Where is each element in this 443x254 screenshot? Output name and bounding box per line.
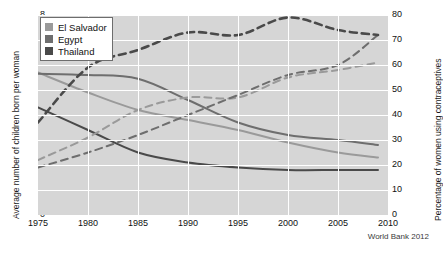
x-axis-tick-label: 1985 [118,218,158,228]
legend: El SalvadorEgyptThailand [40,17,113,61]
x-axis-tick-label: 2010 [368,218,408,228]
gridline-horizontal [38,90,388,91]
x-axis-tick-label: 2000 [268,218,308,228]
y-axis-left-title: Average number of children born per woma… [11,51,21,219]
x-axis-tick-label: 2005 [318,218,358,228]
y-axis-right-tick-label: 60 [392,59,416,69]
legend-swatch-icon [45,23,53,31]
series-line-el_salvador-right [38,63,378,161]
y-axis-right-tick-label: 10 [392,184,416,194]
legend-label: Thailand [58,47,94,56]
x-axis-tick-label: 1995 [218,218,258,228]
gridline-horizontal [38,190,388,191]
gridline-horizontal [38,140,388,141]
source-attribution: World Bank 2012 [368,232,429,241]
gridline-horizontal [38,15,388,16]
y-axis-right-tick-label: 50 [392,84,416,94]
gridline-horizontal [38,65,388,66]
gridline-horizontal [38,115,388,116]
x-axis-tick-label: 1990 [168,218,208,228]
y-axis-right-tick-label: 40 [392,109,416,119]
legend-label: El Salvador [58,23,107,32]
series-line-egypt-left [38,74,378,145]
gridline-horizontal [38,165,388,166]
legend-item-thailand: Thailand [45,45,107,57]
legend-swatch-icon [45,47,53,55]
y-axis-right-tick-label: 20 [392,159,416,169]
x-axis-tick-label: 1975 [18,218,58,228]
y-axis-right-tick-label: 80 [392,9,416,19]
x-axis-tick-label: 1980 [68,218,108,228]
y-axis-right-tick-label: 30 [392,134,416,144]
legend-item-egypt: Egypt [45,33,107,45]
y-axis-right-tick-label: 70 [392,34,416,44]
legend-item-el_salvador: El Salvador [45,21,107,33]
y-axis-right-title: Percentage of women using contraceptives [433,58,443,221]
legend-swatch-icon [45,35,53,43]
legend-label: Egypt [58,35,82,44]
